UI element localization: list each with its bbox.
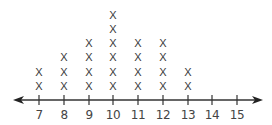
x-mark: X [131,51,145,63]
x-mark: X [156,51,170,63]
line-plot: XXXXXXXXXXXXXXXXXXXXXXXXX 78910111213141… [0,0,272,125]
tick-label-14: 14 [200,108,224,122]
x-mark: X [181,66,195,78]
tick-label-15: 15 [225,108,249,122]
x-mark: X [32,66,46,78]
x-mark: X [106,66,120,78]
x-mark: X [131,37,145,49]
x-mark: X [82,37,96,49]
x-mark: X [156,80,170,92]
tick-label-13: 13 [176,108,200,122]
x-mark: X [82,66,96,78]
tick-label-12: 12 [151,108,175,122]
x-mark: X [57,80,71,92]
x-mark: X [106,9,120,21]
x-mark: X [156,66,170,78]
x-mark: X [131,80,145,92]
tick-label-10: 10 [101,108,125,122]
x-mark: X [82,51,96,63]
x-mark: X [106,51,120,63]
x-mark: X [131,66,145,78]
x-mark: X [106,37,120,49]
tick-label-9: 9 [77,108,101,122]
x-mark: X [57,51,71,63]
tick-label-11: 11 [126,108,150,122]
x-mark: X [82,80,96,92]
tick-label-7: 7 [27,108,51,122]
x-mark: X [106,23,120,35]
x-mark: X [32,80,46,92]
x-mark: X [181,80,195,92]
x-mark: X [106,80,120,92]
x-mark: X [57,66,71,78]
tick-label-8: 8 [52,108,76,122]
x-mark: X [156,37,170,49]
